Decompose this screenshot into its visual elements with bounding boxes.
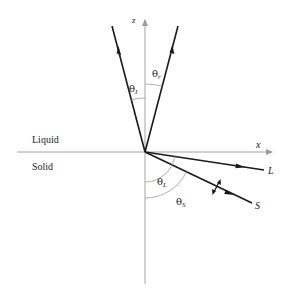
longitudinal-label: L: [267, 165, 274, 176]
reflected-arrow-icon: [170, 45, 175, 54]
reflected-ray: [145, 26, 178, 152]
shear-label: S: [255, 200, 260, 211]
z-axis-label: z: [131, 15, 136, 25]
angle-labels: θI θr θL θS: [129, 68, 186, 209]
theta-r-arc: [145, 84, 162, 86]
wave-reflection-diagram: z x Liquid Solid L S: [0, 0, 288, 301]
liquid-region-label: Liquid: [32, 134, 59, 145]
theta-i-arc: [131, 98, 145, 100]
x-axis-label: x: [255, 139, 261, 150]
theta-l-label: θL: [157, 176, 167, 189]
shear-arrow-icon: [224, 190, 235, 195]
theta-r-label: θr: [152, 68, 161, 81]
solid-region-label: Solid: [32, 161, 53, 172]
theta-s-label: θS: [176, 196, 186, 209]
longitudinal-ray: L: [145, 152, 274, 176]
